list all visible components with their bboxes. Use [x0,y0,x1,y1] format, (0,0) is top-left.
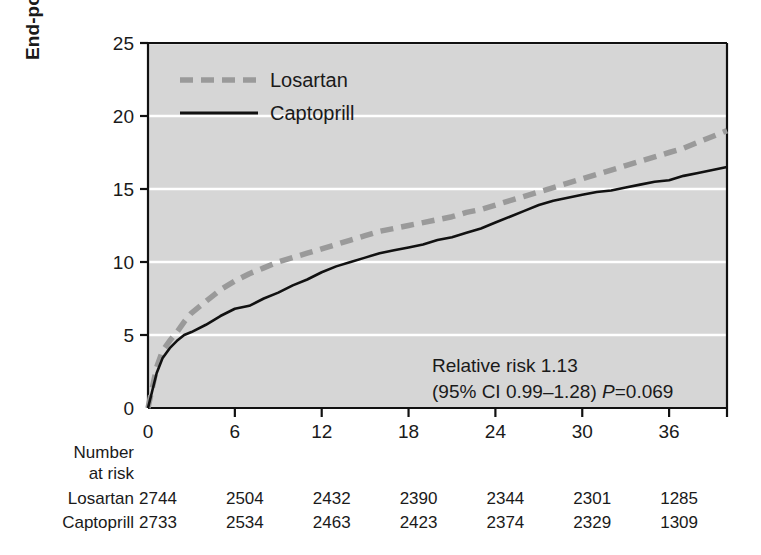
annotation-line-1: Relative risk 1.13 [432,355,578,376]
annotation-line-2: (95% CI 0.99–1.28) P=0.069 [432,381,673,402]
legend-label-losartan: Losartan [270,69,348,91]
risk-table-value-losartan-0: 2744 [123,489,193,509]
risk-table-value-captoprill-24: 2374 [470,513,540,533]
y-tick-label-0: 0 [123,398,134,419]
risk-table-value-captoprill-6: 2534 [210,513,280,533]
y-tick-label-10: 10 [113,252,134,273]
x-tick-label-12: 12 [311,421,332,440]
risk-table-row-label-losartan: Losartan [4,489,134,509]
x-tick-label-18: 18 [398,421,419,440]
y-tick-label-15: 15 [113,179,134,200]
risk-table-row-label-captoprill: Captoprill [4,513,134,533]
risk-table-value-losartan-6: 2504 [210,489,280,509]
risk-table-value-losartan-18: 2390 [384,489,454,509]
risk-table-value-losartan-12: 2432 [297,489,367,509]
risk-table-value-losartan-30: 2301 [557,489,627,509]
x-tick-label-36: 36 [659,421,680,440]
legend-label-captoprill: Captoprill [270,102,354,124]
y-tick-label-25: 25 [113,33,134,54]
risk-table-heading-line-2: at risk [14,464,134,484]
y-tick-label-5: 5 [123,325,134,346]
risk-table-value-losartan-24: 2344 [470,489,540,509]
x-tick-label-6: 6 [230,421,241,440]
x-tick-label-24: 24 [485,421,507,440]
x-tick-label-30: 30 [572,421,593,440]
risk-table-value-captoprill-0: 2733 [123,513,193,533]
risk-table-value-captoprill-30: 2329 [557,513,627,533]
chart-canvas: 0510152025061218243036LosartanCaptoprill… [0,0,761,440]
y-axis-ticks: 0510152025 [113,33,148,419]
risk-table-value-captoprill-36: 1309 [644,513,714,533]
risk-table-value-losartan-36: 1285 [644,489,714,509]
x-tick-label-0: 0 [143,421,154,440]
y-tick-label-20: 20 [113,106,134,127]
figure: End-point rate (%) 051015202506121824303… [0,0,761,555]
risk-table-heading-line-1: Number [14,443,134,463]
x-axis-ticks: 061218243036 [143,408,727,440]
risk-table-value-captoprill-12: 2463 [297,513,367,533]
risk-table-value-captoprill-18: 2423 [384,513,454,533]
plot-background [148,43,727,408]
